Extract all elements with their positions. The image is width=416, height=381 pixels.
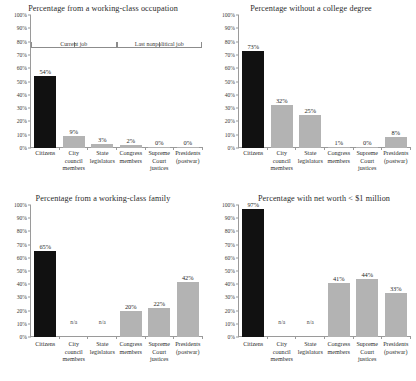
bar-slot: n/a bbox=[296, 205, 325, 337]
x-axis-category-label: Congress members bbox=[325, 150, 354, 165]
bar-slot: 1% bbox=[325, 15, 354, 148]
x-axis-category-label: Supreme Court justices bbox=[145, 341, 174, 364]
x-axis-tick-mark bbox=[202, 147, 203, 150]
bar bbox=[328, 283, 350, 337]
x-axis-category-label: Congress members bbox=[117, 150, 146, 165]
bars-container: 73%32%25%1%0%8% bbox=[239, 15, 410, 148]
bar-value-label: 44% bbox=[353, 271, 382, 278]
x-axis-category-label: Citizens bbox=[239, 341, 268, 349]
x-axis-category-label: Presidents (postwar) bbox=[382, 150, 411, 165]
bar-value-label: 73% bbox=[239, 43, 268, 50]
bracket-label: Current job bbox=[31, 41, 117, 47]
bar-slot: 97% bbox=[239, 205, 268, 337]
bar-slot: 41% bbox=[325, 205, 354, 337]
x-axis-category-label: State legislators bbox=[296, 150, 325, 165]
x-axis-category-label: Presidents (postwar) bbox=[174, 341, 203, 356]
x-axis-category-label: Citizens bbox=[31, 150, 60, 158]
bars-container: 65%n/an/a20%22%42% bbox=[31, 205, 202, 337]
bar-value-label: 3% bbox=[88, 136, 117, 143]
bar-na-label: n/a bbox=[88, 319, 117, 325]
bar-value-label: 42% bbox=[174, 274, 203, 281]
x-axis-category-label: City council members bbox=[268, 341, 297, 364]
chart-panel-3: Percentage from a working-class family0%… bbox=[0, 190, 208, 381]
bar-value-label: 2% bbox=[117, 137, 146, 144]
x-axis-category-label: Presidents (postwar) bbox=[174, 150, 203, 165]
bar-value-label: 22% bbox=[145, 300, 174, 307]
x-axis-category-label: Supreme Court justices bbox=[353, 341, 382, 364]
bar-slot: 22% bbox=[145, 205, 174, 337]
bar bbox=[356, 279, 378, 337]
bar-value-label: 0% bbox=[145, 139, 174, 146]
bars-container: 97%n/an/a41%44%33% bbox=[239, 205, 410, 337]
bar-slot: 73% bbox=[239, 15, 268, 148]
multi-panel-bar-chart-figure: Percentage from a working-class occupati… bbox=[0, 0, 416, 381]
x-axis-category-label: Supreme Court justices bbox=[145, 150, 174, 173]
x-axis-category-label: State legislators bbox=[88, 341, 117, 356]
x-axis-tick-mark bbox=[410, 336, 411, 339]
bar bbox=[148, 308, 170, 337]
bar-na-label: n/a bbox=[60, 319, 89, 325]
x-axis-labels: CitizensCity council membersState legisl… bbox=[31, 148, 202, 190]
x-axis-tick-mark bbox=[410, 147, 411, 150]
bar bbox=[120, 311, 142, 337]
bracket-label: Last nonpolitical job bbox=[117, 41, 203, 47]
bar bbox=[63, 136, 85, 148]
bar-slot: 32% bbox=[268, 15, 297, 148]
bar bbox=[385, 293, 407, 337]
plot-area: 0%10%20%30%40%50%60%70%80%90%100%73%32%2… bbox=[238, 15, 410, 148]
bar-value-label: 25% bbox=[296, 107, 325, 114]
bracket-annotations: Current jobLast nonpolitical job bbox=[31, 30, 202, 56]
bar-value-label: 1% bbox=[325, 139, 354, 146]
x-axis-category-label: City council members bbox=[268, 150, 297, 173]
x-axis-labels: CitizensCity council membersState legisl… bbox=[239, 339, 410, 381]
bar-value-label: 9% bbox=[60, 128, 89, 135]
chart-panel-1: Percentage from a working-class occupati… bbox=[0, 0, 208, 190]
bar-value-label: 20% bbox=[117, 303, 146, 310]
x-axis-category-label: State legislators bbox=[88, 150, 117, 165]
x-axis-category-label: Citizens bbox=[31, 341, 60, 349]
bar bbox=[271, 105, 293, 148]
bar-value-label: 0% bbox=[353, 139, 382, 146]
plot-area: 0%10%20%30%40%50%60%70%80%90%100%97%n/an… bbox=[238, 205, 410, 337]
x-axis-category-label: Congress members bbox=[117, 341, 146, 356]
bar-slot: 20% bbox=[117, 205, 146, 337]
bar-slot: 0% bbox=[353, 15, 382, 148]
bar-slot: 65% bbox=[31, 205, 60, 337]
bar bbox=[299, 115, 321, 148]
panel-title: Percentage from a working-class occupati… bbox=[0, 4, 206, 14]
bar-slot: n/a bbox=[88, 205, 117, 337]
bar-value-label: 0% bbox=[174, 139, 203, 146]
bar-value-label: 32% bbox=[268, 97, 297, 104]
bar bbox=[34, 76, 56, 148]
x-axis-category-label: Presidents (postwar) bbox=[382, 341, 411, 356]
x-axis-category-label: State legislators bbox=[296, 341, 325, 356]
bar bbox=[242, 209, 264, 337]
x-axis-category-label: City council members bbox=[60, 150, 89, 173]
x-axis-labels: CitizensCity council membersState legisl… bbox=[31, 339, 202, 381]
bar-value-label: 97% bbox=[239, 201, 268, 208]
chart-panel-4: Percentage with net worth < $1 million0%… bbox=[208, 190, 416, 381]
bar-na-label: n/a bbox=[296, 319, 325, 325]
bar-slot: 44% bbox=[353, 205, 382, 337]
bar-slot: n/a bbox=[60, 205, 89, 337]
x-axis-tick-mark bbox=[202, 336, 203, 339]
bar-value-label: 8% bbox=[382, 129, 411, 136]
plot-area: 0%10%20%30%40%50%60%70%80%90%100%65%n/an… bbox=[30, 205, 202, 337]
bar-slot: n/a bbox=[268, 205, 297, 337]
bar-value-label: 41% bbox=[325, 275, 354, 282]
panel-title: Percentage from a working-class family bbox=[0, 194, 206, 204]
bar bbox=[385, 137, 407, 148]
x-axis-category-label: City council members bbox=[60, 341, 89, 364]
bar-value-label: 33% bbox=[382, 285, 411, 292]
bar-slot: 42% bbox=[174, 205, 203, 337]
bar-slot: 25% bbox=[296, 15, 325, 148]
x-axis-category-label: Citizens bbox=[239, 150, 268, 158]
bar bbox=[242, 51, 264, 148]
chart-panel-2: Percentage without a college degree0%10%… bbox=[208, 0, 416, 190]
bar-na-label: n/a bbox=[268, 319, 297, 325]
x-axis-category-label: Supreme Court justices bbox=[353, 150, 382, 173]
x-axis-category-label: Congress members bbox=[325, 341, 354, 356]
x-axis-labels: CitizensCity council membersState legisl… bbox=[239, 148, 410, 190]
bar bbox=[34, 251, 56, 337]
panel-title: Percentage without a college degree bbox=[208, 4, 414, 14]
